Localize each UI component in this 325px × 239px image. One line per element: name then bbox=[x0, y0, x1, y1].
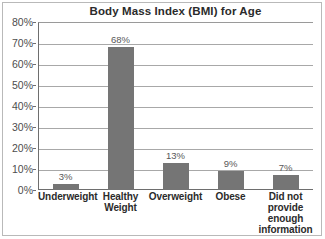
x-axis-category-line: Did not bbox=[258, 191, 313, 202]
y-axis-tick-label: 50% bbox=[12, 79, 33, 91]
x-axis-category-label: Overweight bbox=[148, 191, 203, 202]
x-axis-category-line: Underweight bbox=[38, 191, 93, 202]
x-axis-category-line: enough bbox=[258, 213, 313, 224]
x-axis-category-line: information bbox=[258, 224, 313, 235]
y-axis-tick-label: 60% bbox=[12, 58, 33, 70]
y-axis-tick-mark bbox=[33, 190, 36, 191]
y-axis-tick-mark bbox=[33, 22, 36, 23]
bar-slot: 13% bbox=[148, 22, 203, 190]
chart-title: Body Mass Index (BMI) for Age bbox=[38, 3, 313, 19]
y-axis-tick-mark bbox=[33, 127, 36, 128]
bar-value-label: 7% bbox=[279, 162, 293, 173]
y-axis-tick-label: 40% bbox=[12, 100, 33, 112]
bar[interactable] bbox=[163, 163, 189, 190]
y-axis-tick-mark bbox=[33, 85, 36, 86]
bar[interactable] bbox=[273, 175, 299, 190]
y-axis-tick-label: 70% bbox=[12, 37, 33, 49]
y-axis-tick-label: 30% bbox=[12, 121, 33, 133]
x-axis-category-line: provide bbox=[258, 202, 313, 213]
x-axis-category-label: Underweight bbox=[38, 191, 93, 202]
y-axis-tick-mark bbox=[33, 106, 36, 107]
y-axis-tick-mark bbox=[33, 148, 36, 149]
bar-slot: 9% bbox=[203, 22, 258, 190]
y-axis-tick-mark bbox=[33, 169, 36, 170]
bar-slot: 7% bbox=[258, 22, 313, 190]
y-axis-tick-label: 0% bbox=[18, 184, 33, 196]
x-axis-category-line: Weight bbox=[93, 202, 148, 213]
bar-slot: 3% bbox=[38, 22, 93, 190]
y-axis-tick-label: 10% bbox=[12, 163, 33, 175]
bar[interactable] bbox=[218, 171, 244, 190]
x-axis-category-line: Healthy bbox=[93, 191, 148, 202]
bar-value-label: 9% bbox=[224, 158, 238, 169]
y-axis: 0%10%20%30%40%50%60%70%80% bbox=[0, 22, 36, 190]
bar-value-label: 3% bbox=[59, 171, 73, 182]
bar-series: 3%68%13%9%7% bbox=[38, 22, 313, 190]
y-axis-tick-label: 20% bbox=[12, 142, 33, 154]
bar[interactable] bbox=[108, 47, 134, 190]
x-axis: UnderweightHealthyWeightOverweightObeseD… bbox=[38, 191, 313, 237]
x-axis-category-label: HealthyWeight bbox=[93, 191, 148, 213]
bmi-bar-chart-figure: Body Mass Index (BMI) for Age 0%10%20%30… bbox=[0, 0, 325, 239]
x-axis-category-label: Obese bbox=[203, 191, 258, 202]
bar-value-label: 13% bbox=[166, 150, 185, 161]
y-axis-tick-mark bbox=[33, 43, 36, 44]
x-axis-category-line: Obese bbox=[203, 191, 258, 202]
x-axis-category-line: Overweight bbox=[148, 191, 203, 202]
bar[interactable] bbox=[53, 184, 79, 190]
y-axis-tick-mark bbox=[33, 64, 36, 65]
y-axis-tick-label: 80% bbox=[12, 16, 33, 28]
bar-value-label: 68% bbox=[111, 34, 130, 45]
bar-slot: 68% bbox=[93, 22, 148, 190]
x-axis-category-label: Did notprovideenoughinformation bbox=[258, 191, 313, 235]
